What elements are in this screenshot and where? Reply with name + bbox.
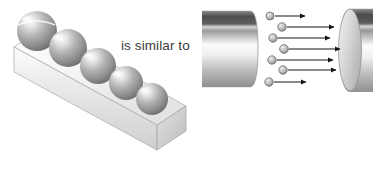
particle-6	[279, 66, 336, 74]
particle-3	[269, 34, 330, 42]
right-diagram	[200, 0, 373, 173]
right-cylinder	[339, 9, 373, 92]
particle-2	[278, 23, 334, 31]
left-cylinder	[202, 11, 258, 87]
left-diagram: is similar to	[0, 0, 200, 173]
sphere-5	[136, 83, 168, 115]
figure-canvas: is similar to	[0, 0, 373, 173]
caption-is-similar-to: is similar to	[121, 39, 190, 53]
right-cylinder-face	[339, 9, 362, 91]
particle-7	[265, 78, 306, 86]
spheres-on-bar-graphic	[0, 0, 200, 173]
particle-5	[268, 56, 333, 64]
cylinders-with-particles-graphic	[200, 0, 373, 173]
particle-4	[280, 45, 340, 54]
particle-arrow-group	[265, 12, 340, 86]
particle-1	[266, 12, 305, 20]
